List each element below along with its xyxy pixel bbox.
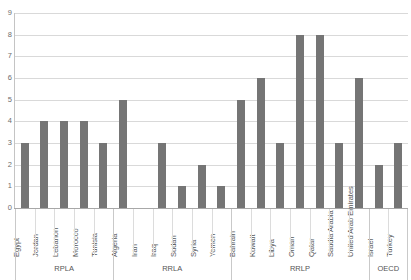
category-separator-tick	[172, 209, 173, 255]
bar[interactable]	[158, 143, 166, 208]
bar[interactable]	[80, 121, 88, 208]
category-separator-tick	[388, 209, 389, 255]
bar[interactable]	[119, 100, 127, 208]
y-axis-tick-label: 6	[0, 74, 12, 82]
y-axis-tick-label: 7	[0, 52, 12, 60]
category-label-band: EgyptJordanLebanonMoroccoTunisiaAlgeriaI…	[15, 209, 408, 258]
y-axis-tick-label: 8	[0, 31, 12, 39]
bar-slot	[231, 13, 251, 208]
x-axis-tick-label: Morocco	[72, 228, 80, 257]
category-separator-tick	[251, 209, 252, 255]
x-axis-tick-label: Lebanon	[52, 228, 60, 257]
bar[interactable]	[296, 35, 304, 208]
bar-slot	[15, 13, 35, 208]
x-axis-tick-label: Jordan	[32, 234, 40, 257]
bar[interactable]	[355, 78, 363, 208]
bar-slot	[153, 13, 173, 208]
bar[interactable]	[60, 121, 68, 208]
bar-slot	[349, 13, 369, 208]
bar[interactable]	[276, 143, 284, 208]
x-axis-tick-label: Kuwait	[249, 234, 257, 257]
y-axis-tick-label: 5	[0, 96, 12, 104]
y-axis-labels: 0123456789	[0, 0, 12, 280]
bars-layer	[15, 13, 408, 208]
x-axis-tick-label: Qatar	[308, 238, 316, 257]
x-axis-tick-label: Syria	[190, 240, 198, 257]
bar-slot	[192, 13, 212, 208]
category-separator-tick	[192, 209, 193, 255]
category-separator-tick	[54, 209, 55, 255]
x-axis-tick-label: Saudia Arabia	[327, 210, 335, 257]
bar[interactable]	[375, 165, 383, 208]
group-separator	[407, 209, 408, 280]
bar[interactable]	[40, 121, 48, 208]
y-axis-tick-label: 9	[0, 9, 12, 17]
bar-slot	[369, 13, 389, 208]
group-label: RPLA	[15, 262, 113, 276]
bar-slot	[290, 13, 310, 208]
category-separator-tick	[35, 209, 36, 255]
y-axis-tick-label: 0	[0, 204, 12, 212]
category-separator-tick	[212, 209, 213, 255]
y-axis-tick-label: 3	[0, 139, 12, 147]
x-axis-tick-label: Bahrain	[229, 231, 237, 257]
group-separator	[369, 209, 370, 280]
bar[interactable]	[237, 100, 245, 208]
bar-slot	[54, 13, 74, 208]
bar-slot	[113, 13, 133, 208]
bar-slot	[310, 13, 330, 208]
bar[interactable]	[316, 35, 324, 208]
category-separator-tick	[290, 209, 291, 255]
x-axis-tick-label: United Arab Emirates	[347, 186, 355, 257]
group-separator	[15, 209, 16, 280]
category-separator-tick	[310, 209, 311, 255]
category-separator-tick	[329, 209, 330, 255]
y-axis-tick-label: 4	[0, 117, 12, 125]
x-axis-tick-label: Turkey	[386, 234, 394, 257]
category-separator-tick	[94, 209, 95, 255]
bar[interactable]	[217, 186, 225, 208]
bar-slot	[74, 13, 94, 208]
bar[interactable]	[257, 78, 265, 208]
x-axis-tick-label: Algeria	[111, 234, 119, 257]
x-axis-tick-label: Libya	[268, 239, 276, 257]
bar-slot	[270, 13, 290, 208]
bar-chart: 0123456789 EgyptJordanLebanonMoroccoTuni…	[0, 0, 411, 280]
category-separator-tick	[349, 209, 350, 255]
y-axis-tick-label: 1	[0, 182, 12, 190]
group-label: RRLA	[113, 262, 231, 276]
bar[interactable]	[21, 143, 29, 208]
x-axis-category: Turkey	[388, 209, 408, 258]
category-separator-tick	[270, 209, 271, 255]
group-separator	[113, 209, 114, 280]
bar[interactable]	[178, 186, 186, 208]
bar-slot	[251, 13, 271, 208]
x-axis-tick-label: Tunisia	[91, 233, 99, 257]
bar[interactable]	[335, 143, 343, 208]
group-label: RRLP	[231, 262, 369, 276]
x-axis-tick-label: Egypt	[13, 238, 21, 257]
x-axis-tick-label: Israel	[367, 239, 375, 257]
category-separator-tick	[153, 209, 154, 255]
x-axis-tick-label: Iran	[131, 244, 139, 257]
category-separator-tick	[74, 209, 75, 255]
x-axis-tick-label: Sudan	[170, 235, 178, 257]
bar-slot	[388, 13, 408, 208]
y-axis-tick-label: 2	[0, 161, 12, 169]
bar-slot	[133, 13, 153, 208]
bar-slot	[35, 13, 55, 208]
bar[interactable]	[394, 143, 402, 208]
category-separator-tick	[133, 209, 134, 255]
x-axis-tick-label: Yemen	[209, 234, 217, 257]
group-label-band: RPLARRLARRLPOECD	[15, 258, 408, 280]
group-separator	[231, 209, 232, 280]
bar-slot	[329, 13, 349, 208]
bar-slot	[172, 13, 192, 208]
bar-slot	[94, 13, 114, 208]
x-axis-tick-label: Oman	[288, 237, 296, 257]
bar[interactable]	[99, 143, 107, 208]
chart-title-clipped	[0, 0, 411, 9]
x-axis-tick-label: Iraq	[150, 244, 158, 257]
group-label: OECD	[369, 262, 408, 276]
bar[interactable]	[198, 165, 206, 208]
